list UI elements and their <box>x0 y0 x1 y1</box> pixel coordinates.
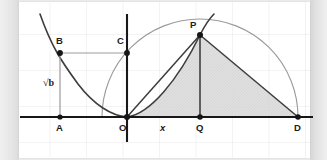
left-parabola-curve <box>40 14 127 117</box>
point-C <box>124 50 130 56</box>
label-point-a: A <box>56 123 63 133</box>
shaded-region-texture <box>100 20 320 130</box>
point-B <box>57 50 63 56</box>
geometry-figure: A B C O P Q D x √b <box>0 0 327 160</box>
label-point-b: B <box>56 36 63 46</box>
point-D <box>295 114 301 120</box>
label-point-o: O <box>119 123 126 133</box>
point-A <box>57 114 62 119</box>
point-O <box>124 114 130 120</box>
point-Q <box>197 114 203 120</box>
label-point-p: P <box>190 20 196 30</box>
label-point-c: C <box>117 36 124 46</box>
label-point-d: D <box>294 123 301 133</box>
point-P <box>197 32 203 38</box>
label-sqrt-b: √b <box>43 78 54 88</box>
label-point-q: Q <box>196 123 203 133</box>
label-segment-x: x <box>160 123 165 133</box>
